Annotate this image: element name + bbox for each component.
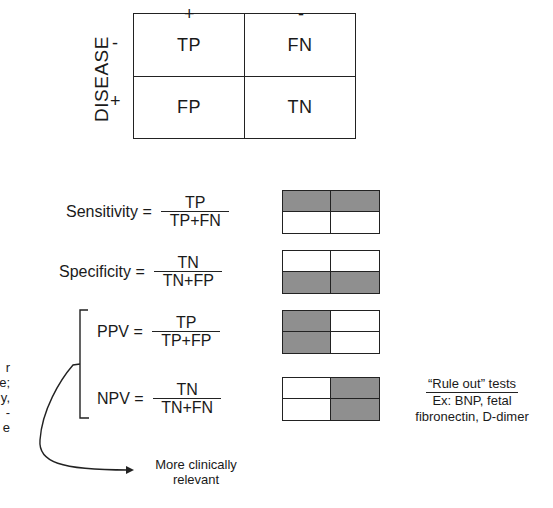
clipped-line: r	[0, 360, 10, 375]
rule-out-line-2: Ex: BNP, fetal	[398, 393, 546, 409]
clipped-line: e;	[0, 375, 10, 390]
more-clinically-relevant-note: More clinically relevant	[140, 457, 252, 487]
bracket-icon	[80, 310, 89, 418]
clipped-line: y,	[0, 390, 10, 405]
clipped-left-text: r e; y, - e	[0, 360, 10, 435]
arrowhead-icon	[126, 466, 134, 474]
bracket-arrow	[0, 0, 553, 508]
rule-out-line-3: fibronectin, D-dimer	[398, 409, 546, 425]
note-line-1: More clinically	[140, 457, 252, 472]
rule-out-annotation: “Rule out” tests Ex: BNP, fetal fibronec…	[398, 376, 546, 425]
clipped-line: e	[0, 420, 10, 435]
curved-arrow-icon	[40, 364, 128, 470]
rule-out-title: “Rule out” tests	[426, 376, 518, 393]
note-line-2: relevant	[140, 472, 252, 487]
clipped-line: -	[0, 405, 10, 420]
